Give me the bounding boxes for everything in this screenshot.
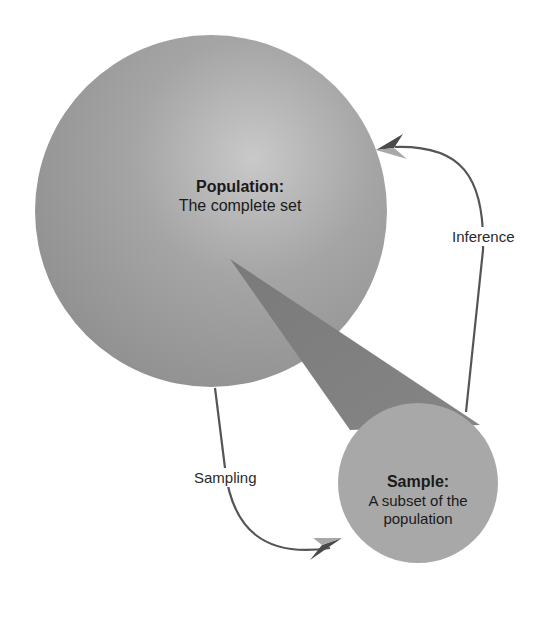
sample-subtitle-line1: A subset of the (343, 492, 493, 510)
sample-label: Sample: A subset of the population (343, 473, 493, 527)
population-subtitle: The complete set (140, 197, 340, 216)
inference-label: Inference (450, 227, 517, 246)
sample-subtitle-line2: population (343, 510, 493, 528)
population-label: Population: The complete set (140, 178, 340, 216)
inference-arrow (395, 147, 483, 412)
sampling-label: Sampling (192, 468, 259, 487)
sample-title: Sample: (343, 473, 493, 492)
population-title: Population: (140, 178, 340, 197)
